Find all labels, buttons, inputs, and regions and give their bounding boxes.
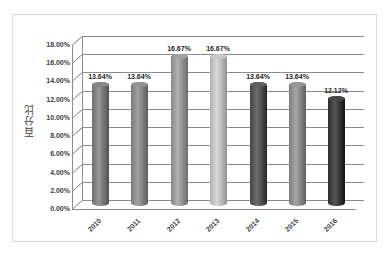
value-label: 13.64% (238, 73, 278, 81)
bar-2010 (92, 82, 109, 206)
value-label: 13.64% (80, 73, 120, 81)
x-axis-line (72, 209, 356, 210)
bar-cap (210, 54, 227, 59)
bar-2011 (131, 82, 148, 206)
bar-2014 (250, 82, 267, 206)
y-tick-label: 6.00% (44, 150, 70, 158)
bar-2015 (289, 82, 306, 206)
y-tick-label: 18.00% (44, 41, 70, 49)
y-tick-label: 4.00% (44, 169, 70, 177)
y-tick-label: 16.00% (44, 59, 70, 67)
y-tick-label: 10.00% (44, 114, 70, 122)
bar-2013 (210, 54, 227, 206)
value-label: 16.67% (198, 45, 238, 53)
bar-2016 (328, 96, 345, 206)
y-tick-label: 12.00% (44, 96, 70, 104)
bar-cap (131, 82, 148, 87)
value-label: 13.64% (119, 73, 159, 81)
bar-cap (171, 54, 188, 59)
bar-cap (289, 82, 306, 87)
value-label: 16.67% (159, 45, 199, 53)
bar-cap (250, 82, 267, 87)
y-tick-label: 0.00% (44, 205, 70, 213)
y-tick-label: 14.00% (44, 77, 70, 85)
bar-cap (92, 82, 109, 87)
y-tick-label: 8.00% (44, 132, 70, 140)
value-label: 13.64% (277, 73, 317, 81)
y-axis-title: 百分比 (22, 104, 37, 137)
bar-cap (328, 96, 345, 101)
gridline (82, 36, 364, 37)
back-wall-edge (82, 36, 83, 200)
value-label: 12.12% (316, 87, 356, 95)
y-tick-label: 2.00% (44, 187, 70, 195)
bar-2012 (171, 54, 188, 206)
y-axis-line (72, 45, 73, 209)
